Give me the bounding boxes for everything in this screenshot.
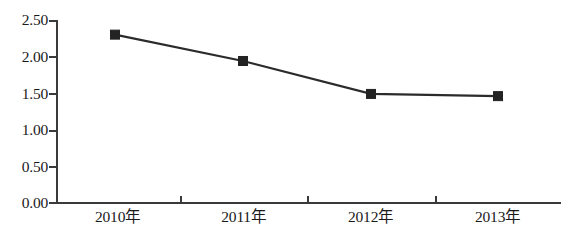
series-plot-area [0, 0, 561, 235]
series-data-point [239, 56, 248, 65]
series-data-point [367, 89, 376, 98]
line-chart-figure: 2.50 2.00 1.50 1.00 0.50 0.00 2010年 2011… [0, 0, 561, 235]
series-data-point [111, 30, 120, 39]
series-marker-group [111, 30, 503, 100]
series-line [115, 35, 498, 96]
series-data-point [494, 92, 503, 101]
